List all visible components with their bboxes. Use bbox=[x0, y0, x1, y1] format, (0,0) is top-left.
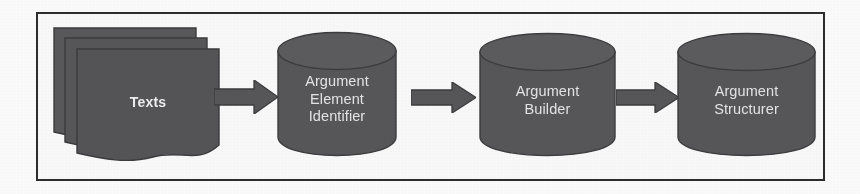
node-argument-element-identifier: Argument Element Identifier bbox=[277, 31, 397, 157]
arrow-builder-to-structurer bbox=[616, 82, 679, 113]
cylinder-shape bbox=[479, 32, 616, 157]
diagram-root: Texts Argument Element Identifier bbox=[0, 0, 860, 194]
arrow-identifier-to-builder bbox=[411, 82, 476, 113]
node-texts: Texts bbox=[50, 26, 230, 166]
node-texts-label: Texts bbox=[77, 94, 219, 110]
arrow-texts-to-identifier bbox=[214, 80, 278, 114]
right-arrow-icon bbox=[411, 82, 476, 113]
diagram-stage: Texts Argument Element Identifier bbox=[0, 0, 860, 194]
cylinder-shape bbox=[277, 31, 397, 157]
node-argument-builder: Argument Builder bbox=[479, 32, 616, 157]
cylinder-shape bbox=[677, 32, 816, 157]
right-arrow-icon bbox=[616, 82, 679, 113]
node-argument-structurer: Argument Structurer bbox=[677, 32, 816, 157]
right-arrow-icon bbox=[214, 80, 278, 114]
